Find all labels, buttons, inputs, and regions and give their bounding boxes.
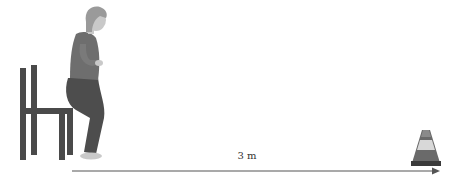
distance-arrow	[72, 168, 440, 175]
diagram-illustration	[0, 0, 455, 180]
diagram-canvas: 3 m	[0, 0, 455, 180]
chair-icon	[20, 65, 73, 160]
distance-label: 3 m	[230, 150, 264, 161]
traffic-cone-icon	[411, 130, 441, 166]
